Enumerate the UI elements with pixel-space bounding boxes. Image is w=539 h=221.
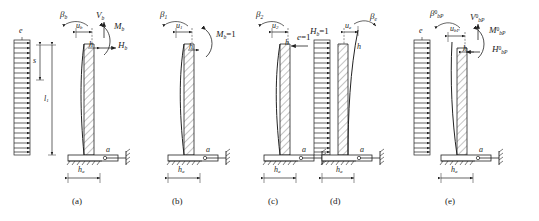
- panel-a-shear-label: Vb: [96, 11, 104, 21]
- panel-d-load-label: e=1: [297, 33, 311, 42]
- panel-b-graphics: [166, 22, 230, 183]
- panel-a-height-label: h: [89, 41, 93, 49]
- panel-b-base-dim-label: ha: [178, 166, 184, 175]
- panel-c-base-dim-label: ha: [274, 166, 280, 175]
- panel-e-graphics: [414, 23, 503, 183]
- panel-e-moment-label: M0bP: [489, 26, 506, 36]
- panel-b-displacement-label: u1: [176, 22, 182, 31]
- panel-a-base-dim-label: ha: [78, 166, 84, 175]
- panel-a-caption: (a): [72, 196, 82, 206]
- panel-a-rotation-label: βb: [60, 10, 67, 20]
- panel-b-height-label: h: [189, 43, 193, 51]
- panel-a-load-label: e: [19, 27, 23, 35]
- panel-d-caption: (d): [330, 196, 341, 206]
- panel-d-base-point-label: a: [360, 146, 364, 154]
- panel-a-displacement-label: ub: [76, 22, 82, 31]
- panel-c-height-label: h: [285, 39, 289, 47]
- panel-a-moment-label: Mb: [114, 22, 124, 32]
- panel-e-displacement-label: ubP: [450, 25, 460, 34]
- panel-e-rotation-label: β0bP: [430, 9, 443, 19]
- panel-d-height-label: h: [357, 43, 361, 51]
- panel-a-thrust-label: Hb: [118, 41, 127, 51]
- panel-c-rotation-label: β2: [256, 10, 263, 20]
- panel-e-height-label: h: [463, 45, 467, 53]
- panel-c-caption: (c): [268, 196, 278, 206]
- panel-b-applied-moment-label: Mb=1: [216, 30, 236, 40]
- panel-d-base-dim-label: ha: [336, 166, 342, 175]
- panel-c-displacement-label: u2: [272, 22, 278, 31]
- panel-b-base-point-label: a: [206, 146, 210, 154]
- panel-e-shear-label: V0bP: [470, 13, 485, 23]
- panel-d-rotation-label: βe: [370, 12, 377, 22]
- panel-b-caption: (b): [172, 196, 183, 206]
- panel-a-base-point-label: a: [106, 146, 110, 154]
- panel-e-caption: (e): [445, 196, 455, 206]
- panel-e-load-label: e: [419, 27, 423, 35]
- panel-d-displacement-label: ue: [345, 22, 351, 31]
- panel-a-dim-upper-label: s: [33, 57, 36, 65]
- panel-a-dim-lower-label: l1: [44, 95, 49, 104]
- panel-e-base-point-label: a: [479, 146, 483, 154]
- panel-a-graphics: [14, 22, 130, 183]
- panel-e-thrust-label: H0bP: [492, 45, 508, 55]
- panel-d-graphics: [314, 21, 384, 183]
- panel-e-base-dim-label: ha: [451, 166, 457, 175]
- panel-c-graphics: [262, 22, 326, 183]
- figure-canvas: e s l1 βb ub h Vb Mb Hb a ha (a) β1 u1 h…: [0, 0, 539, 221]
- panel-b-rotation-label: β1: [160, 10, 167, 20]
- panel-c-base-point-label: a: [302, 146, 306, 154]
- panel-c-applied-thrust-label: Hb=1: [310, 27, 329, 37]
